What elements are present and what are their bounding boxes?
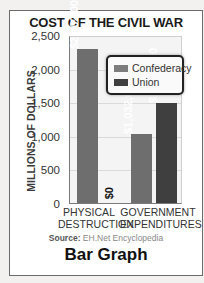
y-tick: 2,000 [31,64,60,76]
x-category-line: EXPENDITURES [120,218,196,230]
legend-item-union: Union [114,76,159,88]
caption: Bar Graph [10,245,202,265]
chart-card: COST OF THE CIVIL WAR MILLIONS OF DOLLAR… [9,10,203,276]
x-category-label: GOVERNMENT EXPENDITURES [120,206,196,230]
bar-confederacy-government: $1,032,000 [131,134,152,203]
source-label: Source: [49,233,81,243]
y-tick: 2,500 [31,30,60,42]
bar-value-label-zero: $0 [103,187,115,199]
legend-label: Confederacy [132,62,192,74]
x-category-line: DESTRUCTION [58,218,120,230]
source-text: EH.Net Encyclopedia [83,233,163,243]
y-tick: 500 [41,164,60,176]
bar-union-government: $1,487,000 [156,103,177,203]
legend-swatch [114,79,128,86]
x-category-line: PHYSICAL [58,206,120,218]
bar-value-label: $2,302,000 [68,0,80,49]
bar-confederacy-physical: $2,302,000 [77,49,98,203]
legend-label: Union [132,76,159,88]
chart-title: COST OF THE CIVIL WAR [10,15,202,30]
x-category-line: GOVERNMENT [120,206,196,218]
legend: Confederacy Union [106,55,184,95]
y-tick: 1,000 [31,131,60,143]
legend-item-confederacy: Confederacy [114,62,192,74]
legend-swatch [114,65,128,72]
source-note: Source: EH.Net Encyclopedia [10,233,202,243]
x-category-label: PHYSICAL DESTRUCTION [58,206,120,230]
y-tick: 1,500 [31,97,60,109]
